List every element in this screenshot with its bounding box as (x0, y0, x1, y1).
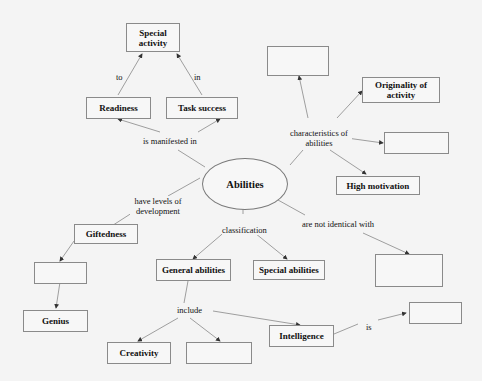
node-blank-not-identical (375, 254, 443, 287)
node-genius: Genius (23, 310, 88, 332)
node-giftedness: Giftedness (74, 224, 138, 244)
node-originality: Originality of activity (362, 77, 440, 103)
node-task-success: Task success (166, 97, 238, 119)
node-readiness: Readiness (86, 97, 151, 119)
node-general-abilities: General abilities (156, 259, 231, 281)
node-special-activity: Special activity (126, 23, 180, 52)
edge-label-classification: classification (222, 225, 267, 235)
edge-label-include: include (177, 305, 202, 315)
edge-label-to: to (116, 72, 123, 82)
node-blank-include (186, 342, 252, 364)
node-special-abilities: Special abilities (253, 260, 325, 280)
node-high-motivation: High motivation (336, 176, 420, 195)
node-blank-left-mid (34, 262, 87, 284)
node-blank-is (409, 302, 462, 324)
edge-label-is: is (366, 322, 372, 332)
node-blank-top-right (267, 46, 329, 76)
edge-label-characteristics: characteristics of abilities (286, 128, 352, 148)
edge-label-in: in (194, 72, 201, 82)
node-blank-right (384, 132, 449, 154)
node-intelligence: Intelligence (269, 325, 334, 347)
edge-label-is-manifested-in: is manifested in (143, 136, 197, 146)
edge-label-have-levels: have levels of development (130, 196, 186, 216)
edge-label-not-identical: are not identical with (302, 219, 374, 229)
center-abilities: Abilities (202, 158, 288, 210)
node-creativity: Creativity (107, 342, 171, 364)
